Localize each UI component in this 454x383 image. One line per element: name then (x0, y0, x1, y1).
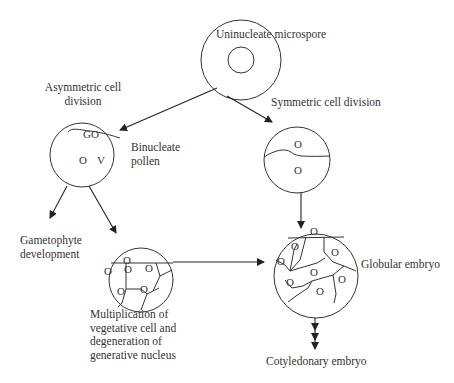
label-line: degeneration of (90, 335, 176, 349)
label-line: Asymmetric cell (33, 80, 133, 94)
label-line: Binucleate (131, 140, 180, 154)
nucleus-glyph: O (117, 284, 125, 298)
label-globular-embryo: Globular embryo (361, 257, 440, 271)
arrow-to-multiplication (89, 186, 116, 233)
arrow-to-gametophyte (50, 186, 67, 218)
nucleus-glyph: O (338, 272, 346, 286)
vegetative-nucleus-glyph: O (79, 153, 87, 167)
label-binucleate-pollen: Binucleate pollen (131, 140, 180, 168)
generative-nucleus-glyph: GO (83, 127, 99, 141)
arrow-asymmetric-division (120, 88, 217, 130)
label-line: division (33, 94, 133, 108)
nucleus-glyph: O (124, 262, 132, 276)
nucleus-glyph: O (291, 239, 299, 253)
label-line: Multiplication of (90, 308, 176, 322)
label-line: pollen (131, 154, 180, 168)
nucleus-glyph: O (140, 282, 148, 296)
vegetative-label-glyph: V (97, 153, 105, 167)
label-uninucleate-microspore: Uninucleate microspore (216, 27, 326, 41)
label-line: development (20, 247, 82, 261)
nucleus-glyph: O (294, 163, 302, 177)
label-line: Gametophyte (20, 233, 82, 247)
label-cotyledonary-embryo: Cotyledonary embryo (266, 354, 367, 368)
diagram-canvas (0, 0, 454, 383)
label-gametophyte-development: Gametophyte development (20, 233, 82, 261)
nucleus-glyph: O (104, 264, 112, 278)
nucleus-glyph: O (310, 265, 318, 279)
nucleus-glyph: O (310, 224, 318, 238)
label-line: generative nucleus (90, 349, 176, 363)
label-symmetric-division: Symmetric cell division (271, 95, 381, 109)
nucleus-glyph: O (316, 284, 324, 298)
nucleus-glyph: O (331, 245, 339, 259)
nucleus-glyph: O (145, 261, 153, 275)
label-multiplication: Multiplication of vegetative cell and de… (90, 308, 176, 362)
nucleus-glyph: O (294, 137, 302, 151)
label-line: vegetative cell and (90, 322, 176, 336)
multicellular-pollen-cell (109, 248, 173, 312)
arrow-symmetric-division (227, 96, 272, 122)
nucleus-glyph: O (286, 275, 294, 289)
nucleus-glyph: O (277, 254, 285, 268)
label-asymmetric-division: Asymmetric cell division (33, 80, 133, 108)
